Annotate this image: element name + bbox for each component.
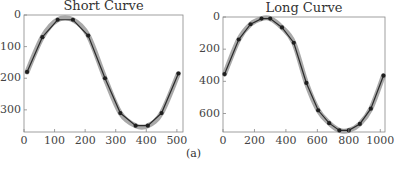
data-point (280, 25, 284, 29)
data-point (237, 37, 241, 41)
chart-title: Long Curve (223, 0, 385, 15)
data-point (381, 74, 385, 78)
data-point (292, 41, 296, 45)
y-tick-label: 400 (181, 74, 220, 87)
y-tick-label: 600 (181, 107, 220, 120)
data-point (304, 81, 308, 85)
data-point (358, 122, 362, 126)
y-tick-label: 0 (181, 10, 220, 23)
data-point (327, 121, 331, 125)
data-point (337, 128, 341, 132)
data-point (268, 17, 272, 21)
data-point (369, 107, 373, 111)
data-point (259, 17, 263, 21)
data-point (248, 22, 252, 26)
data-point (222, 72, 226, 76)
y-tick-label: 200 (181, 42, 220, 55)
x-tick-label: 1000 (360, 134, 399, 147)
figure-caption: (a) (186, 147, 201, 160)
data-point (316, 108, 320, 112)
